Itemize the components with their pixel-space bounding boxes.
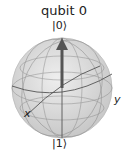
label-y-axis: y [114,94,121,106]
label-x-axis: x [24,108,31,120]
label-ket-0: |0⟩ [52,20,67,32]
label-ket-1: |1⟩ [52,138,67,150]
